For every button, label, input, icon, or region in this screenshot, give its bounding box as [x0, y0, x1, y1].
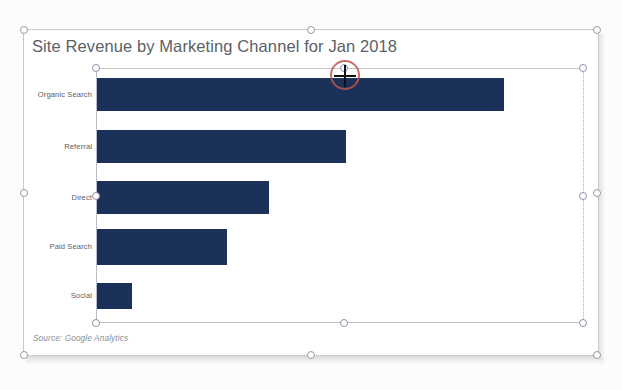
plot-handle-bottom-right[interactable] [579, 319, 587, 327]
category-label-paid-search: Paid Search [4, 242, 92, 251]
handle-bottom-right[interactable] [593, 351, 601, 359]
handle-middle-left[interactable] [20, 189, 28, 197]
bar-0[interactable] [97, 78, 504, 111]
handle-middle-right[interactable] [593, 189, 601, 197]
bar-2[interactable] [97, 181, 269, 214]
plot-handle-middle-right[interactable] [579, 192, 587, 200]
handle-bottom-center[interactable] [307, 351, 315, 359]
object-drop-shadow-right [599, 34, 605, 359]
handle-top-left[interactable] [20, 26, 28, 34]
plot-handle-bottom-center[interactable] [340, 319, 348, 327]
screenshot-root: Site Revenue by Marketing Channel for Ja… [0, 0, 622, 390]
bar-3[interactable] [97, 229, 227, 265]
category-label-direct: Direct [4, 192, 92, 201]
plot-handle-top-left[interactable] [92, 64, 100, 72]
source-note: Source: Google Analytics [33, 334, 128, 343]
handle-top-center[interactable] [307, 26, 315, 34]
category-label-referral: Referral [4, 141, 92, 150]
plot-handle-top-right[interactable] [579, 64, 587, 72]
plot-handle-bottom-left[interactable] [92, 319, 100, 327]
plot-handle-middle-left[interactable] [92, 192, 100, 200]
category-label-social: Social [4, 291, 92, 300]
bar-4[interactable] [97, 283, 132, 309]
object-drop-shadow [26, 356, 604, 365]
chart-title[interactable]: Site Revenue by Marketing Channel for Ja… [32, 37, 397, 56]
handle-top-right[interactable] [593, 26, 601, 34]
category-label-organic-search: Organic Search [4, 89, 92, 98]
bar-1[interactable] [97, 130, 346, 163]
cursor-highlight-ring [330, 60, 360, 90]
handle-bottom-left[interactable] [20, 351, 28, 359]
